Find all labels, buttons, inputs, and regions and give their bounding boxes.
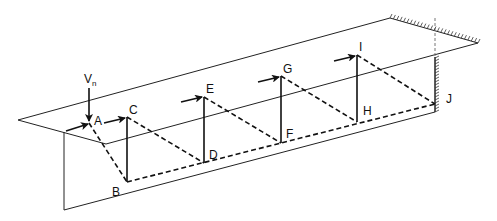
compression-struts [89,55,435,182]
node-label-j: J [446,92,452,106]
node-label-d: D [209,148,218,162]
node-label-a: A [94,114,102,128]
node-label-f: F [286,127,293,141]
load-label: Vn [84,72,96,88]
node-label-g: G [283,62,292,76]
node-labels: A B C D E F G H I J [94,40,452,199]
truss-diagram: Vn A B C D E F G H I J [0,0,497,221]
node-label-e: E [206,82,214,96]
node-label-b: B [112,185,120,199]
beam-outline [18,18,478,210]
node-label-i: I [359,40,362,54]
node-label-h: H [363,104,372,118]
wall-support [390,18,478,112]
node-label-c: C [129,103,138,117]
